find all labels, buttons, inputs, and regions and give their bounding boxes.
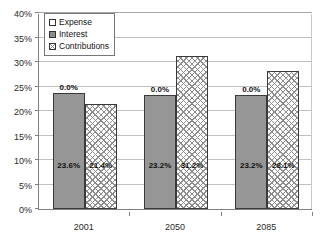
legend-label: Expense — [59, 18, 92, 27]
x-axis: 200120502085 — [38, 212, 312, 238]
bar-value-label: 23.2% — [145, 161, 175, 170]
legend-item-expense: Expense — [49, 17, 109, 28]
legend-item-interest: Interest — [49, 29, 109, 40]
y-tick-label: 10% — [14, 157, 32, 166]
chart-legend: ExpenseInterestContributions — [44, 13, 115, 56]
x-tick-mark — [129, 212, 130, 216]
bar-interest-2001: 23.6%0.0% — [53, 93, 85, 209]
legend-swatch-icon — [49, 19, 56, 26]
bar-group: 23.2%0.0%28.1% — [222, 14, 313, 209]
bar-interest-2050: 23.2%0.0% — [144, 95, 176, 209]
legend-label: Contributions — [59, 42, 109, 51]
bar-value-label: 21.4% — [86, 161, 116, 170]
x-tick-mark — [312, 212, 313, 216]
y-tick-label: 35% — [14, 34, 32, 43]
x-tick-mark — [221, 212, 222, 216]
y-tick-label: 5% — [19, 181, 32, 190]
bar-contributions-2085: 28.1% — [267, 71, 299, 209]
bar-chart: 0%5%10%15%20%25%30%35%40% 23.6%0.0%21.4%… — [0, 0, 330, 246]
y-tick-label: 30% — [14, 59, 32, 68]
y-axis: 0%5%10%15%20%25%30%35%40% — [0, 0, 36, 210]
bar-value-label: 23.6% — [54, 161, 84, 170]
bar-value-label: 28.1% — [268, 161, 298, 170]
legend-item-contributions: Contributions — [49, 41, 109, 52]
bar-group: 23.2%0.0%31.2% — [130, 14, 221, 209]
bar-value-label-expense: 0.0% — [145, 85, 175, 94]
bar-interest-2085: 23.2%0.0% — [235, 95, 267, 209]
legend-swatch-icon — [49, 43, 56, 50]
legend-swatch-icon — [49, 31, 56, 38]
x-tick-label-2050: 2050 — [165, 222, 185, 232]
y-tick-label: 40% — [14, 10, 32, 19]
x-tick-label-2001: 2001 — [74, 222, 94, 232]
bar-value-label-expense: 0.0% — [236, 85, 266, 94]
y-tick-label: 0% — [19, 206, 32, 215]
x-tick-label-2085: 2085 — [256, 222, 276, 232]
bar-value-label: 31.2% — [177, 161, 207, 170]
bar-contributions-2001: 21.4% — [85, 104, 117, 209]
bar-contributions-2050: 31.2% — [176, 56, 208, 209]
bar-value-label: 23.2% — [236, 161, 266, 170]
y-tick-label: 25% — [14, 83, 32, 92]
y-tick-label: 15% — [14, 132, 32, 141]
y-tick-label: 20% — [14, 108, 32, 117]
y-tick-mark — [35, 12, 39, 13]
bar-value-label-expense: 0.0% — [54, 83, 84, 92]
legend-label: Interest — [59, 30, 87, 39]
